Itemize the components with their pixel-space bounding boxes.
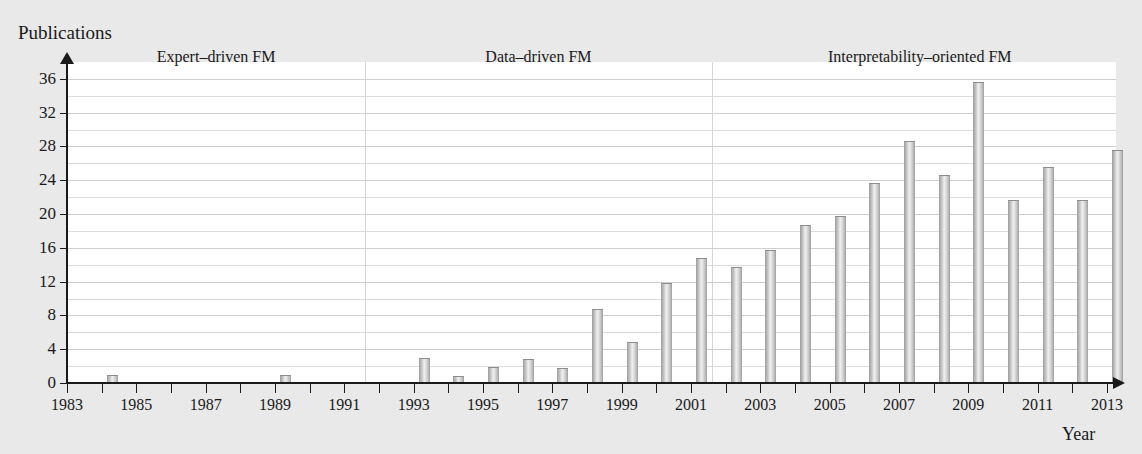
publications-bar-chart: Publications 04812162024283236 198319851…: [0, 0, 1142, 454]
bar: [765, 250, 776, 383]
gridline: [67, 79, 1116, 80]
x-tick: [864, 384, 865, 393]
x-tick: [691, 384, 692, 393]
bar: [557, 368, 568, 383]
x-tick-label: 2005: [798, 396, 862, 414]
x-tick-label: 2013: [1075, 396, 1139, 414]
y-tick: [60, 248, 68, 249]
bar: [592, 309, 603, 383]
x-tick: [275, 384, 276, 393]
bar: [973, 82, 984, 383]
y-tick: [60, 180, 68, 181]
x-tick-label: 1987: [174, 396, 238, 414]
y-tick-label: 32: [0, 104, 56, 121]
x-tick-label: 2001: [659, 396, 723, 414]
gridline: [67, 113, 1116, 114]
plot-area: [67, 62, 1116, 383]
bar: [1043, 167, 1054, 383]
y-tick: [60, 113, 68, 114]
bar: [661, 283, 672, 383]
x-tick: [1107, 384, 1108, 393]
bar: [904, 141, 915, 383]
x-tick: [726, 384, 727, 393]
x-tick: [171, 384, 172, 393]
gridline: [67, 282, 1116, 283]
y-tick-label: 24: [0, 171, 56, 188]
y-tick-label: 4: [0, 340, 56, 357]
x-tick: [206, 384, 207, 393]
gridline: [67, 248, 1116, 249]
x-tick: [102, 384, 103, 393]
y-tick-label: 28: [0, 137, 56, 154]
x-tick-label: 1989: [243, 396, 307, 414]
x-tick: [240, 384, 241, 393]
x-tick: [379, 384, 380, 393]
y-tick-label: 20: [0, 205, 56, 222]
x-tick: [344, 384, 345, 393]
x-tick: [622, 384, 623, 393]
bar: [869, 183, 880, 383]
gridline: [67, 231, 1116, 232]
phase-divider: [712, 62, 713, 383]
gridline: [67, 130, 1116, 131]
gridline: [67, 299, 1116, 300]
y-axis-line: [66, 62, 68, 383]
x-tick: [1003, 384, 1004, 393]
x-tick-label: 2009: [936, 396, 1000, 414]
x-tick: [830, 384, 831, 393]
bar: [835, 216, 846, 383]
x-tick-label: 1999: [590, 396, 654, 414]
x-tick-label: 2011: [1006, 396, 1070, 414]
x-tick: [760, 384, 761, 393]
phase-divider: [365, 62, 366, 383]
x-tick: [1038, 384, 1039, 393]
bar: [1008, 200, 1019, 383]
x-tick: [518, 384, 519, 393]
gridline: [67, 146, 1116, 147]
x-axis-title: Year: [1062, 424, 1095, 444]
x-tick: [656, 384, 657, 393]
x-tick: [483, 384, 484, 393]
x-tick: [136, 384, 137, 393]
x-tick: [587, 384, 588, 393]
x-tick-label: 1983: [35, 396, 99, 414]
x-tick: [795, 384, 796, 393]
x-tick: [310, 384, 311, 393]
x-tick: [552, 384, 553, 393]
x-tick: [67, 384, 68, 393]
bar: [696, 258, 707, 383]
bar: [523, 359, 534, 383]
bar: [731, 267, 742, 383]
bar: [1077, 200, 1088, 383]
phase-label: Interpretability–oriented FM: [712, 48, 1128, 66]
y-tick-label: 8: [0, 306, 56, 323]
y-tick-label: 36: [0, 70, 56, 87]
bar: [939, 175, 950, 383]
phase-label: Expert–driven FM: [67, 48, 365, 66]
x-tick: [899, 384, 900, 393]
bar: [419, 358, 430, 383]
x-tick: [934, 384, 935, 393]
x-tick: [968, 384, 969, 393]
gridline: [67, 197, 1116, 198]
x-tick: [448, 384, 449, 393]
x-tick-label: 1997: [520, 396, 584, 414]
y-tick-label: 16: [0, 239, 56, 256]
x-axis-line: [66, 382, 1116, 384]
y-tick-label: 12: [0, 273, 56, 290]
x-tick-label: 1985: [104, 396, 168, 414]
x-tick: [414, 384, 415, 393]
y-tick: [60, 146, 68, 147]
gridline: [67, 180, 1116, 181]
x-tick: [1072, 384, 1073, 393]
phase-label: Data–driven FM: [365, 48, 712, 66]
gridline: [67, 214, 1116, 215]
gridline: [67, 96, 1116, 97]
bar: [1112, 150, 1123, 383]
bar: [800, 225, 811, 383]
x-tick-label: 1991: [312, 396, 376, 414]
x-tick-label: 2003: [728, 396, 792, 414]
y-tick: [60, 315, 68, 316]
bar: [488, 367, 499, 383]
gridline: [67, 163, 1116, 164]
